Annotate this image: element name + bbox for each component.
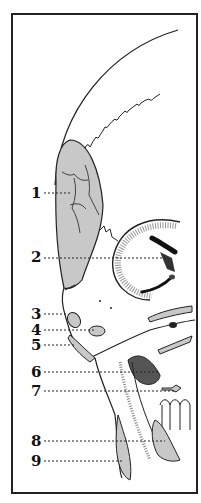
label-1: 1 [31, 186, 41, 201]
structure-3 [65, 310, 83, 330]
label-8: 8 [31, 434, 41, 449]
label-3: 3 [31, 307, 41, 322]
label-2: 2 [31, 250, 41, 265]
label-7: 7 [31, 384, 41, 399]
label-9: 9 [31, 454, 41, 469]
structure-9 [116, 415, 131, 480]
structure-5 [68, 335, 95, 362]
structure-2-orbit [113, 220, 180, 300]
label-5: 5 [31, 338, 41, 353]
label-6: 6 [31, 365, 41, 380]
structure-4 [89, 326, 105, 336]
structure-1-region [56, 140, 103, 288]
